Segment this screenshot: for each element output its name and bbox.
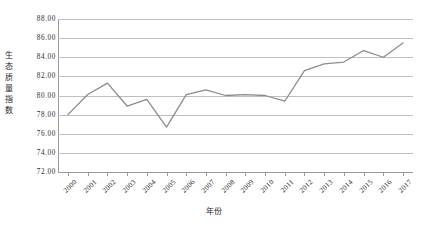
x-axis-tick-mark xyxy=(206,172,207,176)
x-axis-tick-mark xyxy=(383,172,384,176)
y-axis-tick-label: 84.00 xyxy=(4,53,56,61)
x-axis-tick-label: 2017 xyxy=(397,178,414,195)
x-axis-tick-mark xyxy=(324,172,325,176)
x-axis-tick-label: 2011 xyxy=(279,178,295,194)
plot-area xyxy=(58,19,413,172)
x-axis-tick-mark xyxy=(265,172,266,176)
x-axis-tick-label: 2004 xyxy=(141,178,158,195)
x-axis-tick-label: 2013 xyxy=(318,178,335,195)
x-axis-tick-mark xyxy=(285,172,286,176)
x-axis-tick-label: 2014 xyxy=(338,178,355,195)
x-axis-tick-mark xyxy=(186,172,187,176)
x-axis-tick-mark xyxy=(167,172,168,176)
y-axis-tick-label: 74.00 xyxy=(4,149,56,157)
x-axis-tick-label: 2007 xyxy=(200,178,217,195)
y-axis-tick-label: 80.00 xyxy=(4,92,56,100)
gridline xyxy=(58,38,413,39)
gridline xyxy=(58,153,413,154)
y-axis-tick-label: 86.00 xyxy=(4,34,56,42)
x-axis-tick-mark xyxy=(403,172,404,176)
x-axis-tick-mark xyxy=(226,172,227,176)
x-axis-tick-mark xyxy=(107,172,108,176)
gridline xyxy=(58,19,413,20)
gridline xyxy=(58,134,413,135)
x-axis-tick-label: 2003 xyxy=(121,178,138,195)
x-axis-tick-mark xyxy=(147,172,148,176)
x-axis-tick-mark xyxy=(68,172,69,176)
chart-figure: 生态质量指数 88.0086.0084.0082.0080.0078.0076.… xyxy=(0,0,428,228)
y-axis-tick-label: 76.00 xyxy=(4,130,56,138)
x-axis-tick-label: 2005 xyxy=(161,178,178,195)
x-axis-tick-mark xyxy=(245,172,246,176)
y-axis-tick-labels: 88.0086.0084.0082.0080.0078.0076.0074.00… xyxy=(0,0,56,228)
y-axis-tick-label: 78.00 xyxy=(4,111,56,119)
x-axis-tick-mark xyxy=(344,172,345,176)
gridline xyxy=(58,76,413,77)
y-axis-tick-label: 72.00 xyxy=(4,168,56,176)
x-axis-tick-label: 2015 xyxy=(358,178,375,195)
x-axis-tick-mark xyxy=(127,172,128,176)
x-axis-tick-mark xyxy=(364,172,365,176)
x-axis-tick-label: 2010 xyxy=(259,178,276,195)
x-axis-tick-mark xyxy=(88,172,89,176)
x-axis-tick-label: 2001 xyxy=(82,178,99,195)
x-axis-tick-label: 2012 xyxy=(298,178,315,195)
x-axis-title: 年份 xyxy=(0,205,428,216)
gridline xyxy=(58,57,413,58)
x-axis-tick-label: 2000 xyxy=(62,178,79,195)
x-axis-tick-label: 2008 xyxy=(220,178,237,195)
x-axis-tick-label: 2016 xyxy=(377,178,394,195)
gridline xyxy=(58,96,413,97)
gridline xyxy=(58,115,413,116)
x-axis-tick-label: 2002 xyxy=(101,178,118,195)
x-axis-tick-mark xyxy=(304,172,305,176)
y-axis-tick-label: 88.00 xyxy=(4,15,56,23)
y-axis-tick-label: 82.00 xyxy=(4,72,56,80)
x-axis-tick-label: 2006 xyxy=(180,178,197,195)
x-axis-tick-label: 2009 xyxy=(239,178,256,195)
